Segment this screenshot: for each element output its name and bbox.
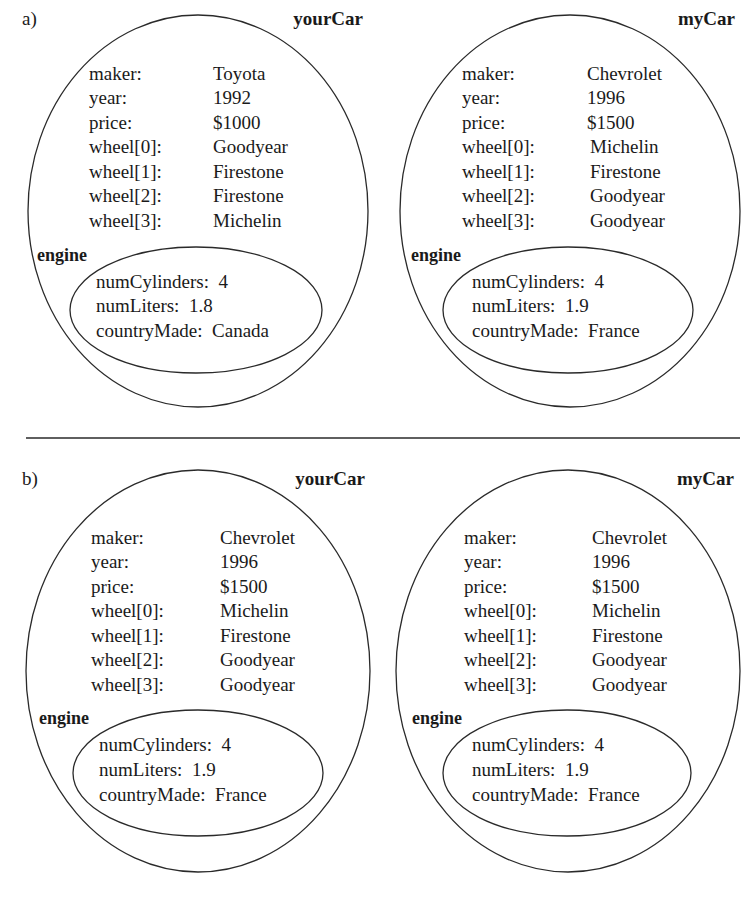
- field-key: wheel[3]:: [89, 211, 162, 230]
- mycar-object-ellipse-a: [400, 15, 740, 407]
- field-key: year:: [462, 88, 500, 107]
- engine-label: engine: [412, 709, 462, 727]
- field-value: $1500: [592, 577, 640, 596]
- engine-field: numCylinders: 4: [99, 735, 231, 754]
- field-value: Goodyear: [220, 675, 295, 694]
- object-name: myCar: [678, 9, 735, 28]
- engine-label: engine: [37, 246, 87, 264]
- engine-label: engine: [411, 246, 461, 264]
- field-key: price:: [464, 577, 507, 596]
- engine-field: numCylinders: 4: [472, 272, 604, 291]
- engine-field: countryMade: France: [472, 321, 640, 340]
- field-value: Michelin: [590, 137, 659, 156]
- field-key: wheel[0]:: [462, 137, 535, 156]
- field-value: Goodyear: [213, 137, 288, 156]
- object-name: myCar: [677, 469, 734, 488]
- engine-field: numLiters: 1.8: [96, 296, 213, 315]
- engine-field: countryMade: Canada: [96, 321, 269, 340]
- engine-field: numLiters: 1.9: [472, 296, 589, 315]
- field-key: maker:: [89, 64, 142, 83]
- field-key: year:: [91, 552, 129, 571]
- panel-label: a): [22, 9, 37, 28]
- field-key: wheel[3]:: [462, 211, 535, 230]
- field-key: wheel[1]:: [89, 162, 162, 181]
- field-key: wheel[3]:: [91, 675, 164, 694]
- mycar-object-ellipse-b: [396, 470, 740, 872]
- field-value: Firestone: [590, 162, 661, 181]
- field-value: 1996: [592, 552, 630, 571]
- field-value: Chevrolet: [220, 528, 295, 547]
- field-key: wheel[2]:: [464, 650, 537, 669]
- yourcar-object-ellipse-a: [28, 15, 368, 407]
- field-value: 1996: [220, 552, 258, 571]
- field-key: wheel[3]:: [464, 675, 537, 694]
- field-value: Chevrolet: [592, 528, 667, 547]
- field-key: price:: [462, 113, 505, 132]
- engine-field: numLiters: 1.9: [99, 760, 216, 779]
- field-key: year:: [89, 88, 127, 107]
- engine-field: countryMade: France: [472, 785, 640, 804]
- field-key: wheel[1]:: [91, 626, 164, 645]
- field-key: wheel[2]:: [89, 186, 162, 205]
- panel-label: b): [22, 469, 38, 488]
- field-value: 1992: [213, 88, 251, 107]
- field-key: wheel[2]:: [462, 186, 535, 205]
- field-value: Firestone: [213, 162, 284, 181]
- field-key: wheel[2]:: [91, 650, 164, 669]
- object-name: yourCar: [295, 469, 365, 488]
- field-value: $1500: [220, 577, 268, 596]
- engine-field: numCylinders: 4: [472, 735, 604, 754]
- field-key: maker:: [462, 64, 515, 83]
- object-name: yourCar: [293, 9, 363, 28]
- field-key: year:: [464, 552, 502, 571]
- field-key: wheel[0]:: [464, 601, 537, 620]
- field-value: Goodyear: [592, 650, 667, 669]
- field-value: Michelin: [213, 211, 282, 230]
- field-value: Goodyear: [220, 650, 295, 669]
- field-value: Michelin: [592, 601, 661, 620]
- field-key: wheel[1]:: [464, 626, 537, 645]
- engine-label: engine: [39, 709, 89, 727]
- engine-field: numCylinders: 4: [96, 272, 228, 291]
- field-value: 1996: [587, 88, 625, 107]
- field-value: Goodyear: [592, 675, 667, 694]
- engine-field: countryMade: France: [99, 785, 267, 804]
- field-value: Goodyear: [590, 211, 665, 230]
- field-value: $1500: [587, 113, 635, 132]
- field-value: Michelin: [220, 601, 289, 620]
- field-key: maker:: [91, 528, 144, 547]
- yourcar-object-ellipse-b: [26, 470, 370, 872]
- field-key: price:: [89, 113, 132, 132]
- field-value: Firestone: [592, 626, 663, 645]
- field-value: Firestone: [213, 186, 284, 205]
- engine-field: numLiters: 1.9: [472, 760, 589, 779]
- field-key: wheel[1]:: [462, 162, 535, 181]
- field-key: wheel[0]:: [89, 137, 162, 156]
- field-value: Toyota: [213, 64, 266, 83]
- field-key: wheel[0]:: [91, 601, 164, 620]
- field-key: maker:: [464, 528, 517, 547]
- field-value: Firestone: [220, 626, 291, 645]
- field-key: price:: [91, 577, 134, 596]
- field-value: Chevrolet: [587, 64, 662, 83]
- field-value: $1000: [213, 113, 261, 132]
- field-value: Goodyear: [590, 186, 665, 205]
